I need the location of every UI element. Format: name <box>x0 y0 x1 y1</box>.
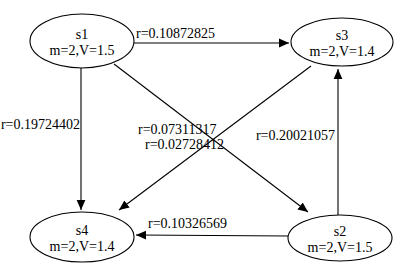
node-s1-name: s1 <box>76 27 88 42</box>
node-s4: s4m=2,V=1.4 <box>30 212 134 262</box>
edge-label-s2-to-s4: r=0.10326569 <box>148 216 227 231</box>
edge-label-s2-to-s3: r=0.20021057 <box>256 128 335 143</box>
edge-label-s1-to-s2: r=0.07311317 <box>138 122 217 137</box>
node-s1-params: m=2,V=1.5 <box>50 43 115 58</box>
edge-label-s1-to-s4: r=0.19724402 <box>1 117 80 132</box>
node-s2-params: m=2,V=1.5 <box>308 240 373 255</box>
node-s2: s2m=2,V=1.5 <box>288 215 392 261</box>
node-s3-params: m=2,V=1.4 <box>310 44 375 59</box>
node-s1: s1m=2,V=1.5 <box>30 14 134 68</box>
edge-label-s1-to-s3: r=0.10872825 <box>136 26 215 41</box>
node-s3: s3m=2,V=1.4 <box>291 18 393 66</box>
node-s4-params: m=2,V=1.4 <box>50 239 115 254</box>
edge-s2-to-s4 <box>136 235 288 236</box>
node-s4-name: s4 <box>76 223 88 238</box>
state-transition-diagram: r=0.10872825r=0.19724402r=0.07311317r=0.… <box>0 0 403 276</box>
edge-label-s3-to-s4: r=0.02728412 <box>145 137 224 152</box>
node-s2-name: s2 <box>334 224 346 239</box>
graph-svg: r=0.10872825r=0.19724402r=0.07311317r=0.… <box>0 0 403 276</box>
node-s3-name: s3 <box>336 28 348 43</box>
